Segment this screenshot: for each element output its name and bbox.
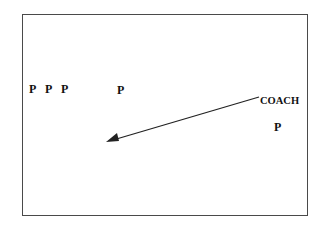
pass-arrow-icon [0,0,325,232]
